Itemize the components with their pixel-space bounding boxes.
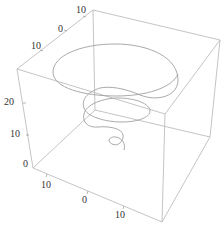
bounding-box — [17, 10, 220, 222]
tick-label: 0 — [58, 24, 63, 34]
tick-label: 20 — [4, 97, 14, 107]
tick-label: 10 — [31, 41, 41, 51]
tick-label: 0 — [23, 159, 28, 169]
tick-label: 10 — [76, 5, 86, 15]
tick-label: 0 — [82, 195, 87, 205]
spiral-3d-plot — [0, 0, 222, 228]
tick-label: 10 — [41, 180, 51, 190]
tick-label: 10 — [115, 210, 125, 220]
spiral-curve — [53, 44, 178, 150]
tick-label: 10 — [10, 129, 20, 139]
